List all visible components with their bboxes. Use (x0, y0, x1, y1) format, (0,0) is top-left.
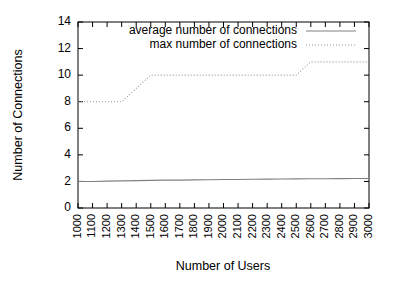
x-tick-label: 2100 (231, 214, 243, 238)
x-tick-label: 1100 (85, 214, 97, 238)
y-tick-label: 12 (58, 41, 72, 55)
y-tick-label: 2 (64, 174, 71, 188)
y-tick-label: 6 (64, 120, 71, 134)
x-tick-label: 1500 (144, 214, 156, 238)
x-tick-label: 1700 (173, 214, 185, 238)
y-tick-label: 4 (64, 147, 71, 161)
y-tick-label: 0 (64, 200, 71, 214)
x-tick-label: 1600 (158, 214, 170, 238)
x-tick-label: 1200 (100, 214, 112, 238)
x-tick-label: 1800 (187, 214, 199, 238)
y-tick-label: 10 (58, 67, 72, 81)
x-tick-label: 1000 (71, 214, 83, 238)
y-tick-label: 8 (64, 94, 71, 108)
data-series-group (78, 62, 369, 182)
x-tick-label: 2700 (318, 214, 330, 238)
x-tick-label: 2900 (347, 214, 359, 238)
x-tick-label: 1400 (129, 214, 141, 238)
x-tick-label: 1900 (202, 214, 214, 238)
legend-label-average: average number of connections (129, 23, 297, 37)
x-tick-label: 2500 (289, 214, 301, 238)
chart-legend: average number of connections max number… (129, 23, 356, 51)
x-axis-tick-labels: 1000110012001300140015001600170018001900… (71, 214, 374, 238)
y-tick-label: 14 (58, 14, 72, 28)
x-tick-label: 1300 (115, 214, 127, 238)
y-axis-title: Number of Connections (11, 49, 25, 180)
connections-line-chart: 02468101214 1000110012001300140015001600… (0, 0, 395, 281)
x-axis-title: Number of Users (176, 259, 270, 273)
x-tick-label: 2300 (260, 214, 272, 238)
chart-svg: 02468101214 1000110012001300140015001600… (0, 0, 395, 281)
x-tick-label: 2400 (275, 214, 287, 238)
series-line-average (78, 179, 369, 182)
series-line-max (78, 62, 369, 102)
x-tick-label: 2800 (333, 214, 345, 238)
x-tick-label: 2600 (304, 214, 316, 238)
legend-label-max: max number of connections (150, 37, 297, 51)
x-tick-label: 2200 (246, 214, 258, 238)
x-tick-label: 3000 (362, 214, 374, 238)
y-axis-tick-labels: 02468101214 (58, 14, 72, 214)
x-tick-label: 2000 (216, 214, 228, 238)
